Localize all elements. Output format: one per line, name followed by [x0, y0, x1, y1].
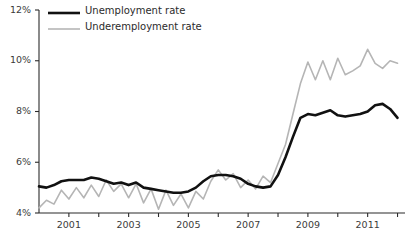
- x-axis-tick-label: 2001: [56, 220, 82, 230]
- chart-container: 4%6%8%10%12% 200120032005200720092011 Un…: [0, 0, 409, 240]
- legend-entry-underemployment: Underemployment rate: [85, 21, 202, 32]
- series-line: [39, 104, 398, 193]
- x-axis-tick-label: 2005: [175, 220, 201, 230]
- x-axis-ticks: [69, 213, 398, 217]
- y-axis-tick-label: 6%: [0, 157, 31, 167]
- y-axis-tick-label: 4%: [0, 208, 31, 218]
- data-series-group: [39, 49, 398, 209]
- x-axis-tick-label: 2007: [235, 220, 261, 230]
- y-axis-tick-label: 12%: [0, 5, 31, 15]
- axes-group: [39, 10, 405, 213]
- y-axis-ticks: [35, 10, 39, 213]
- legend-swatches: [48, 13, 80, 29]
- line-chart-plot: [0, 0, 409, 240]
- y-axis-tick-label: 10%: [0, 55, 31, 65]
- y-axis-tick-label: 8%: [0, 106, 31, 116]
- legend-entry-unemployment: Unemployment rate: [85, 5, 185, 16]
- series-line: [39, 49, 398, 209]
- x-axis-tick-label: 2011: [355, 220, 381, 230]
- x-axis-tick-label: 2009: [295, 220, 321, 230]
- x-axis-tick-label: 2003: [116, 220, 142, 230]
